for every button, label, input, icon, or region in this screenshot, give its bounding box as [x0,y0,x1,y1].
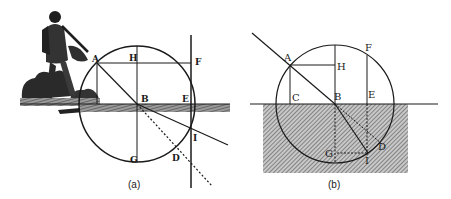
caption-b: (b) [328,179,340,190]
label-a-B: B [141,94,149,104]
label-a-E: E [182,94,189,104]
label-b-G: G [325,148,333,159]
man-illustration [20,11,100,114]
label-a-D: D [172,153,180,163]
label-b-E: E [368,89,375,100]
label-a-G: G [130,155,138,165]
label-b-D: D [378,141,386,152]
label-a-H: H [129,53,138,63]
label-b-A: A [283,52,292,63]
label-b-C: C [292,92,300,103]
panel-a: A H F B E I G D (a) [20,11,230,190]
caption-a: (a) [128,179,140,190]
label-b-F: F [365,42,372,53]
label-a-A: A [91,54,100,64]
refraction-figure: A H F B E I G D (a) A [0,0,451,199]
label-a-I: I [193,133,197,143]
label-b-I: I [365,155,369,166]
panel-b: A H F C B E G I D (b) [250,33,438,190]
label-b-B: B [334,91,341,102]
label-a-F: F [195,57,202,67]
surface-band-a [80,104,230,112]
label-b-H: H [337,61,346,72]
